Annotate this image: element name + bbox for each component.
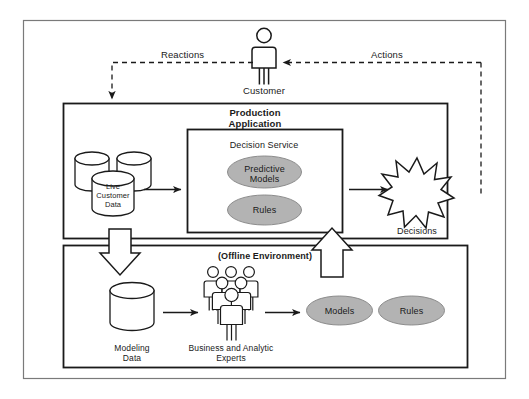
reactions-label: Reactions	[161, 50, 204, 61]
models-artifact-label: Models	[325, 306, 355, 316]
customer-label: Customer	[243, 86, 285, 97]
diagram-canvas: Customer Reactions Actions Production Ap…	[0, 0, 529, 399]
predictive-models-label-line1: Predictive	[244, 164, 285, 174]
people-group-icon	[204, 267, 258, 341]
predictive-models-label-line2: Models	[250, 174, 280, 184]
database-cylinder-icon-modeling	[110, 283, 154, 331]
decision-service-title: Decision Service	[230, 140, 299, 150]
decisions-label: Decisions	[397, 226, 437, 236]
actions-label: Actions	[371, 50, 403, 61]
rules-artifact-label: Rules	[400, 306, 424, 316]
promote-up-block-arrow	[312, 228, 352, 277]
diagram-vector-layer	[0, 0, 529, 399]
person-icon	[252, 28, 276, 84]
modeling-data-label-line2: Data	[123, 354, 141, 364]
deploy-down-block-arrow	[100, 229, 140, 275]
production-application-title-line2: Application	[229, 119, 282, 130]
live-customer-data-label-line3: Data	[105, 201, 121, 209]
starburst-icon	[379, 158, 454, 228]
offline-environment-title: (Offline Environment)	[218, 251, 312, 261]
reactions-flow-arrow	[112, 63, 253, 100]
rules-label: Rules	[253, 205, 277, 215]
experts-label-line2: Experts	[216, 354, 246, 364]
